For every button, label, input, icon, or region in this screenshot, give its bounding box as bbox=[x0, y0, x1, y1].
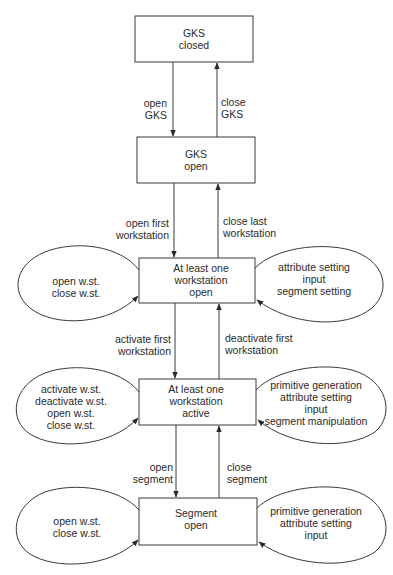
transition-label-line: GKS bbox=[144, 109, 167, 121]
transition-label-line: close bbox=[221, 96, 246, 108]
state-label-line: Segment bbox=[175, 507, 217, 519]
transition-label-line: open bbox=[144, 97, 167, 109]
transition-label-open-segment: open segment bbox=[133, 461, 173, 485]
transition-label-close-gks: close GKS bbox=[221, 96, 246, 120]
transition-label-close-segment: close segment bbox=[227, 461, 267, 485]
state-label-segment-open: Segment open bbox=[175, 507, 217, 531]
transition-label-deactivate-first-ws: deactivate first workstation bbox=[225, 332, 293, 356]
transition-label-close-last-ws: close last workstation bbox=[223, 215, 276, 239]
loop-label-line: open w.st. bbox=[35, 407, 107, 419]
loop-label-line: primitive generation bbox=[265, 379, 368, 391]
transition-label-open-first-ws: open first workstation bbox=[116, 217, 169, 241]
loop-label-line: close w.st. bbox=[35, 419, 107, 431]
transition-label-line: GKS bbox=[221, 108, 246, 120]
state-label-line: workstation bbox=[168, 395, 223, 407]
transition-label-line: workstation bbox=[223, 227, 276, 239]
loop-label-line: close w.st. bbox=[52, 287, 100, 299]
transition-label-line: workstation bbox=[116, 229, 169, 241]
transition-label-line: workstation bbox=[225, 344, 293, 356]
state-label-line: GKS bbox=[179, 27, 209, 39]
state-label-line: At least one bbox=[173, 262, 228, 274]
loop-label-line: primitive generation bbox=[270, 505, 362, 517]
loop-label-line: open w.st. bbox=[52, 275, 100, 287]
state-label-line: open bbox=[175, 519, 217, 531]
loop-label-line: input bbox=[270, 529, 362, 541]
state-label-line: closed bbox=[179, 39, 209, 51]
loop-label-segment-open-left: open w.st. close w.st. bbox=[53, 515, 101, 539]
transition-label-open-gks: open GKS bbox=[144, 97, 167, 121]
state-label-line: open bbox=[184, 160, 207, 172]
state-label-line: workstation bbox=[173, 274, 228, 286]
transition-label-line: activate first bbox=[115, 333, 171, 345]
state-label-line: active bbox=[168, 407, 223, 419]
state-label-gks-closed: GKS closed bbox=[179, 27, 209, 51]
loop-label-ws-open-left: open w.st. close w.st. bbox=[52, 275, 100, 299]
transition-label-line: deactivate first bbox=[225, 332, 293, 344]
loop-label-line: segment manipulation bbox=[265, 415, 368, 427]
loop-label-ws-active-left: activate w.st. deactivate w.st. open w.s… bbox=[35, 383, 107, 431]
loop-label-ws-open-right: attribute setting input segment setting bbox=[277, 261, 351, 297]
loop-label-ws-active-right: primitive generation attribute setting i… bbox=[265, 379, 368, 427]
loop-label-line: activate w.st. bbox=[35, 383, 107, 395]
transition-label-line: segment bbox=[227, 473, 267, 485]
loop-label-line: deactivate w.st. bbox=[35, 395, 107, 407]
loop-label-segment-open-right: primitive generation attribute setting i… bbox=[270, 505, 362, 541]
state-label-ws-open: At least one workstation open bbox=[173, 262, 228, 298]
loop-label-line: attribute setting bbox=[277, 261, 351, 273]
state-label-gks-open: GKS open bbox=[184, 148, 207, 172]
loop-label-line: attribute setting bbox=[270, 517, 362, 529]
transition-label-line: open bbox=[133, 461, 173, 473]
state-label-ws-active: At least one workstation active bbox=[168, 383, 223, 419]
transition-label-line: close last bbox=[223, 215, 276, 227]
transition-label-line: segment bbox=[133, 473, 173, 485]
loop-label-line: input bbox=[265, 403, 368, 415]
loop-label-line: segment setting bbox=[277, 285, 351, 297]
transition-label-activate-first-ws: activate first workstation bbox=[115, 333, 171, 357]
loop-label-line: input bbox=[277, 273, 351, 285]
transition-label-line: workstation bbox=[115, 345, 171, 357]
loop-label-line: open w.st. bbox=[53, 515, 101, 527]
transition-label-line: close bbox=[227, 461, 267, 473]
transition-label-line: open first bbox=[116, 217, 169, 229]
state-label-line: GKS bbox=[184, 148, 207, 160]
state-label-line: open bbox=[173, 286, 228, 298]
loop-label-line: close w.st. bbox=[53, 527, 101, 539]
state-label-line: At least one bbox=[168, 383, 223, 395]
loop-label-line: attribute setting bbox=[265, 391, 368, 403]
